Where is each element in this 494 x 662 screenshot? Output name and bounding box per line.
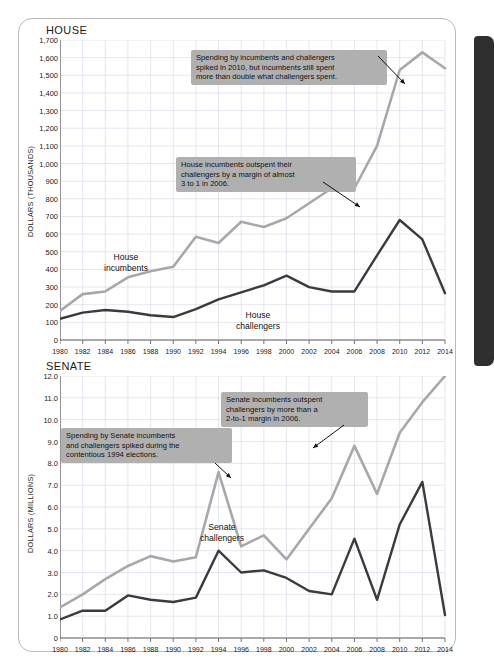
house-x-tick-label: 2010 [392,348,408,355]
house-x-tick-label: 1980 [52,348,68,355]
house-y-tick-labels: 01002003004005006007008009001,0001,1001,… [14,40,58,340]
house-chart-block: HOUSE DOLLARS (THOUSANDS) 01002003004005… [0,22,494,362]
house-x-tick-label: 2006 [347,348,363,355]
house-y-tick-label: 600 [18,230,58,239]
house-y-tick-label: 1,200 [18,124,58,133]
house-x-tick-label: 1988 [143,348,159,355]
senate-y-tick-label: 12.0 [18,372,58,381]
house-x-tick-labels: 1980198219841986198819901992199419961998… [60,345,445,359]
senate-y-tick-label: 5.0 [18,524,58,533]
senate-x-tick-label: 1986 [120,646,136,653]
senate-x-tick-label: 2004 [324,646,340,653]
house-incumbents-series-label: Houseincumbents [104,252,148,273]
house-y-tick-label: 1,100 [18,141,58,150]
senate-chart-title: SENATE [46,360,92,372]
senate-x-tick-label: 2014 [437,646,453,653]
house-y-tick-label: 0 [18,336,58,345]
senate-x-tick-label: 2000 [279,646,295,653]
house-x-tick-label: 1992 [188,348,204,355]
senate-x-tick-label: 1994 [211,646,227,653]
senate-y-tick-labels: 01.02.03.04.05.06.07.08.09.010.011.012.0 [14,376,58,638]
house-x-tick-label: 1986 [120,348,136,355]
house-y-tick-label: 400 [18,265,58,274]
senate-callout-1994: Spending by Senate incumbentsand challen… [61,428,232,463]
house-y-tick-label: 900 [18,177,58,186]
house-x-tick-label: 2000 [279,348,295,355]
house-x-tick-label: 1990 [165,348,181,355]
house-x-tick-label: 1994 [211,348,227,355]
house-x-tick-label: 1996 [233,348,249,355]
house-y-tick-label: 1,700 [18,36,58,45]
house-callout-2006: House incumbents outspent theirchallenge… [176,157,356,192]
house-x-tick-label: 2004 [324,348,340,355]
house-plot-svg [60,40,447,348]
senate-x-tick-label: 1996 [233,646,249,653]
senate-y-tick-label: 9.0 [18,437,58,446]
house-y-tick-label: 800 [18,194,58,203]
house-x-tick-label: 2002 [301,348,317,355]
house-y-tick-label: 700 [18,212,58,221]
senate-x-tick-label: 1990 [165,646,181,653]
senate-y-tick-label: 7.0 [18,481,58,490]
house-x-tick-label: 1982 [75,348,91,355]
house-y-tick-label: 200 [18,300,58,309]
senate-x-tick-label: 1988 [143,646,159,653]
senate-y-tick-label: 4.0 [18,546,58,555]
house-y-tick-label: 1,500 [18,71,58,80]
house-y-tick-label: 100 [18,318,58,327]
senate-y-tick-label: 3.0 [18,568,58,577]
senate-x-tick-label: 1982 [75,646,91,653]
house-x-tick-label: 2012 [415,348,431,355]
senate-callout-2006: Senate incumbents outspentchallengers by… [221,392,368,427]
house-x-tick-label: 1998 [256,348,272,355]
senate-y-tick-label: 0 [18,634,58,643]
house-chart-title: HOUSE [46,24,87,36]
senate-challengers-series-label: Senatechallengers [200,522,244,543]
house-x-tick-label: 2014 [437,348,453,355]
senate-x-tick-labels: 1980198219841986198819901992199419961998… [60,643,445,657]
senate-chart-block: SENATE DOLLARS (MILLIONS) 01.02.03.04.05… [0,358,494,658]
senate-x-tick-label: 1992 [188,646,204,653]
senate-y-tick-label: 1.0 [18,612,58,621]
house-y-tick-label: 500 [18,247,58,256]
house-y-tick-label: 1,000 [18,159,58,168]
senate-y-tick-label: 11.0 [18,393,58,402]
house-x-tick-label: 1984 [97,348,113,355]
senate-x-tick-label: 2002 [301,646,317,653]
house-y-tick-label: 1,600 [18,53,58,62]
senate-y-tick-label: 2.0 [18,590,58,599]
house-callout-2010: Spending by incumbents and challengerssp… [191,50,387,85]
senate-x-tick-label: 2006 [347,646,363,653]
senate-x-tick-label: 2010 [392,646,408,653]
senate-x-tick-label: 2012 [415,646,431,653]
house-y-tick-label: 300 [18,283,58,292]
senate-x-tick-label: 1998 [256,646,272,653]
senate-x-tick-label: 2008 [369,646,385,653]
house-y-tick-label: 1,300 [18,106,58,115]
senate-x-tick-label: 1980 [52,646,68,653]
house-x-tick-label: 2008 [369,348,385,355]
page-root: HOUSE DOLLARS (THOUSANDS) 01002003004005… [0,0,494,662]
senate-y-tick-label: 6.0 [18,503,58,512]
senate-y-tick-label: 8.0 [18,459,58,468]
house-challengers-series-label: Housechallengers [236,310,280,331]
senate-x-tick-label: 1984 [97,646,113,653]
senate-y-tick-label: 10.0 [18,415,58,424]
house-y-tick-label: 1,400 [18,88,58,97]
